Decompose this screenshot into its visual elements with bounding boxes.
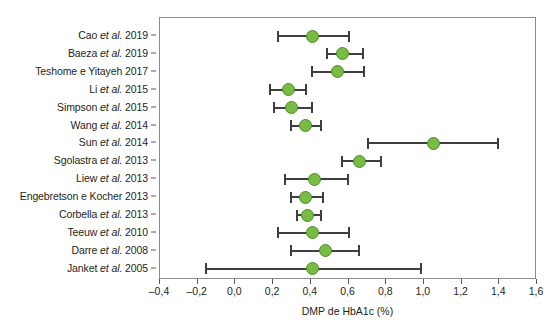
x-axis-tick xyxy=(272,279,273,284)
study-label: Sgolastra et al. 2013 xyxy=(54,155,148,166)
y-axis-tick xyxy=(151,178,156,179)
effect-estimate-marker xyxy=(308,173,321,186)
study-label: Sun et al. 2014 xyxy=(79,137,148,148)
y-axis-tick xyxy=(151,160,156,161)
ci-lower-cap xyxy=(296,210,298,221)
ci-upper-cap xyxy=(363,66,365,77)
ci-lower-cap xyxy=(205,263,207,274)
y-axis-tick xyxy=(151,142,156,143)
x-axis-tick-label: 0,2 xyxy=(265,285,280,297)
effect-estimate-marker xyxy=(306,262,319,275)
study-label: Engebretson e Kocher 2013 xyxy=(20,191,148,202)
ci-upper-cap xyxy=(420,263,422,274)
x-axis-tick-label: 1,2 xyxy=(453,285,468,297)
study-label: Li et al. 2015 xyxy=(89,83,148,94)
ci-upper-cap xyxy=(347,174,349,185)
x-axis-tick-label: 0,4 xyxy=(302,285,317,297)
x-axis-tick xyxy=(234,279,235,284)
x-axis-tick xyxy=(310,279,311,284)
ci-lower-cap xyxy=(290,192,292,203)
effect-estimate-marker xyxy=(336,47,349,60)
effect-estimate-marker xyxy=(319,244,332,257)
ci-lower-cap xyxy=(269,84,271,95)
x-axis-tick-label: –0,2 xyxy=(186,285,206,297)
ci-upper-cap xyxy=(305,84,307,95)
study-label: Janket et al. 2005 xyxy=(67,262,148,273)
y-axis-tick xyxy=(151,52,156,53)
plot-area xyxy=(159,17,536,279)
effect-estimate-marker xyxy=(306,30,319,43)
effect-estimate-marker xyxy=(299,119,312,132)
ci-upper-cap xyxy=(497,138,499,149)
effect-estimate-marker xyxy=(353,155,366,168)
effect-estimate-marker xyxy=(306,226,319,239)
x-axis-tick-label: –0,4 xyxy=(149,285,169,297)
y-axis-tick xyxy=(151,35,156,36)
study-label: Darre et al. 2008 xyxy=(71,244,148,255)
x-axis-tick-label: 0,6 xyxy=(340,285,355,297)
study-label: Corbella et al. 2013 xyxy=(59,209,148,220)
x-axis-tick-label: 0,0 xyxy=(227,285,242,297)
x-axis-tick xyxy=(498,279,499,284)
x-axis-tick xyxy=(159,279,160,284)
x-axis-tick xyxy=(461,279,462,284)
x-axis-tick xyxy=(536,279,537,284)
forest-plot-figure: Cao et al. 2019Baeza et al. 2019Teshome … xyxy=(0,0,555,332)
ci-lower-cap xyxy=(277,31,279,42)
ci-upper-cap xyxy=(362,48,364,59)
x-axis-tick-label: 1,0 xyxy=(416,285,431,297)
effect-estimate-marker xyxy=(299,191,312,204)
x-axis-tick xyxy=(423,279,424,284)
y-axis-tick xyxy=(151,214,156,215)
effect-estimate-marker xyxy=(285,101,298,114)
study-label: Wang et al. 2014 xyxy=(71,119,148,130)
y-axis-tick xyxy=(151,196,156,197)
x-axis-tick-label: 1,4 xyxy=(491,285,506,297)
ci-lower-cap xyxy=(341,156,343,167)
ci-lower-cap xyxy=(290,120,292,131)
ci-lower-cap xyxy=(290,245,292,256)
ci-upper-cap xyxy=(311,102,313,113)
y-axis-tick xyxy=(151,106,156,107)
y-axis-tick xyxy=(151,70,156,71)
y-axis-tick xyxy=(151,124,156,125)
study-label: Teeuw et al. 2010 xyxy=(67,226,148,237)
ci-upper-cap xyxy=(322,192,324,203)
effect-estimate-marker xyxy=(301,209,314,222)
ci-upper-cap xyxy=(348,227,350,238)
ci-lower-cap xyxy=(326,48,328,59)
ci-upper-cap xyxy=(358,245,360,256)
study-label: Teshome e Yitayeh 2017 xyxy=(35,65,148,76)
x-axis-tick-label: 0,8 xyxy=(378,285,393,297)
ci-lower-cap xyxy=(284,174,286,185)
study-label: Cao et al. 2019 xyxy=(78,30,148,41)
ci-upper-cap xyxy=(348,31,350,42)
x-axis-tick xyxy=(385,279,386,284)
study-label: Baeza et al. 2019 xyxy=(68,47,148,58)
effect-estimate-marker xyxy=(282,83,295,96)
study-label-axis: Cao et al. 2019Baeza et al. 2019Teshome … xyxy=(0,0,156,332)
x-axis-title: DMP de HbA1c (%) xyxy=(159,305,536,317)
y-axis-tick xyxy=(151,267,156,268)
y-axis-tick xyxy=(151,88,156,89)
ci-upper-cap xyxy=(320,120,322,131)
effect-estimate-marker xyxy=(427,137,440,150)
effect-estimate-marker xyxy=(331,65,344,78)
x-axis-tick-label: 1,6 xyxy=(529,285,544,297)
x-axis-tick xyxy=(348,279,349,284)
y-axis-tick xyxy=(151,249,156,250)
x-axis-tick xyxy=(197,279,198,284)
ci-lower-cap xyxy=(367,138,369,149)
ci-upper-cap xyxy=(320,210,322,221)
ci-lower-cap xyxy=(273,102,275,113)
ci-lower-cap xyxy=(311,66,313,77)
ci-lower-cap xyxy=(277,227,279,238)
study-label: Simpson et al. 2015 xyxy=(57,101,148,112)
y-axis-tick xyxy=(151,231,156,232)
ci-upper-cap xyxy=(380,156,382,167)
study-label: Liew et al. 2013 xyxy=(76,173,148,184)
